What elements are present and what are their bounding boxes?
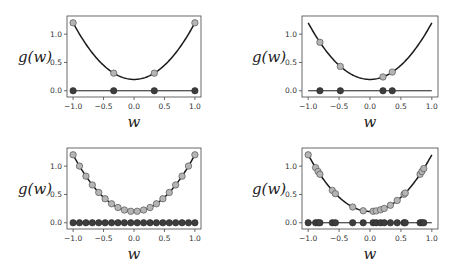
- evaluation-point: [305, 152, 311, 158]
- evaluation-point: [102, 196, 108, 202]
- input-point: [192, 220, 198, 226]
- x-tick-label: 0.0: [364, 102, 376, 111]
- evaluation-point: [89, 182, 95, 188]
- input-point: [166, 220, 172, 226]
- input-point: [115, 220, 121, 226]
- evaluation-point: [166, 189, 172, 195]
- evaluation-point: [96, 189, 102, 195]
- input-point: [381, 220, 387, 226]
- input-point: [128, 220, 134, 226]
- x-axis-label: w: [364, 113, 377, 131]
- input-point: [134, 220, 140, 226]
- evaluation-point: [134, 208, 140, 214]
- evaluation-point: [332, 190, 338, 196]
- axes-frame: [67, 16, 201, 97]
- evaluation-point: [160, 196, 166, 202]
- evaluation-point: [349, 204, 355, 210]
- y-tick-label: 0.0: [285, 86, 297, 95]
- evaluation-point: [179, 173, 185, 179]
- input-point: [317, 88, 323, 94]
- x-tick-label: −0.5: [94, 102, 112, 111]
- x-tick-label: 0.0: [128, 234, 140, 243]
- y-axis-label: g(w): [252, 180, 286, 198]
- x-tick-label: 0.0: [128, 102, 140, 111]
- evaluation-point: [394, 197, 400, 203]
- y-tick-label: 0.0: [50, 86, 62, 95]
- subplot-bottom-right: −1.0−0.50.00.51.00.00.51.0wg(w): [252, 148, 438, 263]
- y-tick-label: 0.0: [285, 218, 297, 227]
- input-point: [305, 220, 311, 226]
- evaluation-point: [360, 208, 366, 214]
- x-tick-label: 1.0: [426, 234, 438, 243]
- x-tick-label: 0.5: [158, 234, 170, 243]
- evaluation-point: [317, 39, 323, 45]
- input-point: [147, 220, 153, 226]
- figure-canvas: −1.0−0.50.00.51.00.00.51.0wg(w)−1.0−0.50…: [0, 0, 460, 268]
- evaluation-point: [381, 205, 387, 211]
- input-point: [172, 220, 178, 226]
- function-curve: [308, 23, 432, 80]
- input-point: [332, 220, 338, 226]
- y-tick-label: 1.0: [50, 162, 62, 171]
- y-tick-label: 0.0: [50, 218, 62, 227]
- input-point: [421, 220, 427, 226]
- input-point: [96, 220, 102, 226]
- evaluation-point: [192, 20, 198, 26]
- input-point: [387, 220, 393, 226]
- input-point: [70, 220, 76, 226]
- y-axis-label: g(w): [18, 48, 52, 66]
- x-tick-label: −1.0: [64, 102, 82, 111]
- input-point: [102, 220, 108, 226]
- x-tick-label: −0.5: [330, 234, 348, 243]
- evaluation-point: [111, 70, 117, 76]
- input-point: [83, 220, 89, 226]
- x-axis-label: w: [128, 113, 141, 131]
- x-tick-label: −1.0: [299, 234, 317, 243]
- y-axis-label: g(w): [252, 48, 286, 66]
- input-point: [337, 88, 343, 94]
- y-axis-label: g(w): [18, 180, 52, 198]
- axes-frame: [67, 148, 201, 229]
- x-tick-label: −1.0: [64, 234, 82, 243]
- evaluation-point: [121, 207, 127, 213]
- y-tick-label: 1.0: [285, 30, 297, 39]
- input-point: [108, 220, 114, 226]
- input-point: [89, 220, 95, 226]
- x-tick-label: 1.0: [189, 234, 201, 243]
- y-tick-label: 1.0: [50, 30, 62, 39]
- x-tick-label: −0.5: [330, 102, 348, 111]
- evaluation-point: [192, 152, 198, 158]
- input-point: [179, 220, 185, 226]
- input-point: [192, 88, 198, 94]
- evaluation-point: [389, 69, 395, 75]
- input-point: [402, 220, 408, 226]
- input-point: [349, 220, 355, 226]
- x-tick-label: 0.0: [364, 234, 376, 243]
- y-tick-label: 0.5: [285, 58, 297, 67]
- y-tick-label: 0.5: [285, 190, 297, 199]
- evaluation-point: [317, 171, 323, 177]
- input-point: [185, 220, 191, 226]
- input-point: [380, 88, 386, 94]
- evaluation-point: [421, 165, 427, 171]
- subplot-top-left: −1.0−0.50.00.51.00.00.51.0wg(w): [18, 16, 201, 131]
- input-point: [389, 88, 395, 94]
- evaluation-point: [108, 201, 114, 207]
- evaluation-point: [70, 152, 76, 158]
- evaluation-point: [172, 182, 178, 188]
- x-tick-label: 1.0: [426, 102, 438, 111]
- subplot-top-right: −1.0−0.50.00.51.00.00.51.0wg(w): [252, 16, 438, 131]
- x-tick-label: 0.5: [158, 102, 170, 111]
- input-point: [317, 220, 323, 226]
- evaluation-point: [151, 70, 157, 76]
- x-axis-label: w: [364, 245, 377, 263]
- x-tick-label: 1.0: [189, 102, 201, 111]
- evaluation-point: [153, 201, 159, 207]
- axes-frame: [302, 16, 438, 97]
- evaluation-point: [185, 163, 191, 169]
- input-point: [394, 220, 400, 226]
- subplot-bottom-left: −1.0−0.50.00.51.00.00.51.0wg(w): [18, 148, 201, 263]
- x-tick-label: −0.5: [94, 234, 112, 243]
- evaluation-point: [337, 63, 343, 69]
- y-tick-label: 1.0: [285, 162, 297, 171]
